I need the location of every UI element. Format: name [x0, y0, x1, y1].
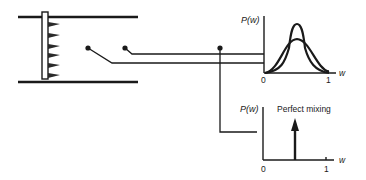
injector-baffle	[42, 12, 60, 79]
top-x-tick-1: 1	[326, 75, 331, 85]
top-y-label: P(w)	[241, 15, 260, 25]
probe-3	[217, 45, 257, 132]
top-x-tick-0: 0	[261, 75, 266, 85]
perfect-mixing-label: Perfect mixing	[277, 104, 331, 114]
injector-jets	[48, 22, 60, 78]
probe-2	[122, 45, 264, 54]
bottom-x-tick-1: 1	[324, 164, 329, 174]
bottom-x-label: w	[339, 155, 346, 165]
bottom-y-label: P(w)	[240, 104, 259, 114]
bottom-plot: P(w) Perfect mixing w 0 1	[240, 104, 346, 174]
channel	[18, 17, 138, 82]
top-plot: P(w) w 0 1	[241, 15, 346, 85]
top-x-label: w	[339, 68, 346, 78]
bottom-x-tick-0: 0	[261, 164, 266, 174]
broad-distribution-curve	[265, 39, 329, 73]
mixing-diagram: P(w) w 0 1 P(w) Perfect mixing w 0 1	[0, 0, 366, 180]
perfect-mixing-arrow	[291, 118, 299, 160]
